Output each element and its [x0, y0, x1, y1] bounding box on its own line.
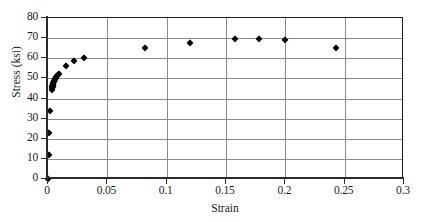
x-axis-tick-label: 0.2 [254, 185, 314, 197]
y-axis-tick [41, 118, 47, 119]
data-point-marker [333, 45, 340, 52]
data-point-marker [80, 55, 87, 62]
data-point-marker [187, 39, 194, 46]
y-axis-tick-label: 40 [0, 92, 38, 104]
x-axis-title: Strain [47, 202, 403, 214]
y-axis-tick-label: 10 [0, 152, 38, 164]
x-axis-tick-label: 0.25 [314, 185, 374, 197]
gridline-vertical [167, 18, 168, 177]
y-axis-tick-label: 0 [0, 172, 38, 184]
stress-strain-chart: Stress (ksi) Strain 0102030405060708000.… [0, 0, 426, 222]
y-axis-tick-label: 30 [0, 112, 38, 124]
y-axis-tick-label: 60 [0, 51, 38, 63]
data-point-marker [256, 35, 263, 42]
y-axis-tick-label: 50 [0, 71, 38, 83]
x-axis-tick-label: 0.15 [195, 185, 255, 197]
gridline-horizontal [48, 159, 402, 160]
y-axis-tick [41, 37, 47, 38]
gridline-horizontal [48, 78, 402, 79]
gridline-horizontal [48, 58, 402, 59]
x-axis-tick-label: 0 [17, 185, 77, 197]
x-axis-tick-label: 0.05 [76, 185, 136, 197]
gridline-vertical [107, 18, 108, 177]
y-axis-tick [41, 17, 47, 18]
gridline-horizontal [48, 119, 402, 120]
x-axis-tick-label: 0.1 [136, 185, 196, 197]
data-point-marker [142, 45, 149, 52]
x-axis-tick-label: 0.3 [373, 185, 426, 197]
data-point-marker [232, 35, 239, 42]
y-axis-tick [41, 138, 47, 139]
plot-area [47, 17, 403, 178]
y-axis-tick-label: 70 [0, 31, 38, 43]
data-point-marker [62, 63, 69, 70]
gridline-horizontal [48, 139, 402, 140]
y-axis-tick [41, 158, 47, 159]
gridline-vertical [345, 18, 346, 177]
gridline-horizontal [48, 38, 402, 39]
y-axis-tick [41, 57, 47, 58]
gridline-vertical [226, 18, 227, 177]
y-axis-tick [41, 98, 47, 99]
y-axis-tick [41, 77, 47, 78]
gridline-horizontal [48, 99, 402, 100]
y-axis-tick-label: 80 [0, 11, 38, 23]
y-axis-tick-label: 20 [0, 132, 38, 144]
